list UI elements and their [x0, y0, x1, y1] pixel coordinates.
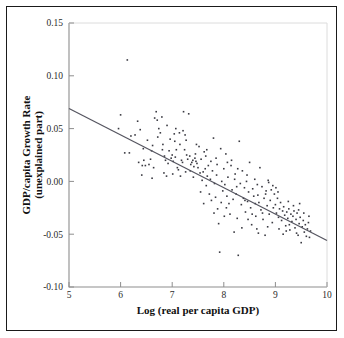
data-point — [158, 128, 160, 130]
data-point — [204, 168, 206, 170]
data-point — [289, 224, 291, 226]
data-point — [226, 195, 228, 197]
data-point — [248, 191, 250, 193]
data-point — [272, 185, 274, 187]
data-point — [296, 232, 298, 234]
data-point — [308, 215, 310, 217]
data-point — [187, 158, 189, 160]
scatter-plot: -0.10-0.050.000.050.100.155678910Log (re… — [0, 0, 344, 338]
data-point — [247, 219, 249, 221]
data-point — [234, 178, 236, 180]
data-point — [254, 178, 256, 180]
data-point — [262, 219, 264, 221]
data-point — [188, 113, 190, 115]
data-point — [241, 227, 243, 229]
figure-container: -0.10-0.050.000.050.100.155678910Log (re… — [0, 0, 344, 338]
data-point — [215, 196, 217, 198]
data-point — [294, 227, 296, 229]
data-point — [258, 232, 260, 234]
data-point — [264, 234, 266, 236]
data-point — [307, 228, 309, 230]
data-point — [288, 201, 290, 203]
data-point — [269, 200, 271, 202]
data-point — [233, 231, 235, 233]
data-point — [253, 195, 255, 197]
data-point — [287, 218, 289, 220]
y-tick-label: 0.10 — [46, 71, 63, 81]
data-point — [295, 219, 297, 221]
data-point — [234, 173, 236, 175]
x-tick-label: 8 — [221, 290, 226, 300]
data-point — [281, 220, 283, 222]
data-point — [256, 228, 258, 230]
data-point — [193, 176, 195, 178]
data-point — [224, 215, 226, 217]
data-point — [228, 203, 230, 205]
y-tick-label: 0.00 — [46, 177, 63, 187]
data-point — [308, 222, 310, 224]
data-point — [171, 154, 173, 156]
x-tick-label: 10 — [322, 290, 332, 300]
data-point — [182, 130, 184, 132]
data-point — [275, 204, 277, 206]
data-point — [241, 204, 243, 206]
data-point — [124, 152, 126, 154]
data-point — [247, 201, 249, 203]
y-tick-label: 0.15 — [46, 18, 63, 28]
data-point — [185, 171, 187, 173]
x-axis-ticks: 5678910 — [67, 282, 332, 300]
data-point — [260, 209, 262, 211]
data-point — [296, 212, 298, 214]
data-point — [258, 202, 260, 204]
data-point — [251, 224, 253, 226]
data-point — [249, 162, 251, 164]
data-point — [179, 144, 181, 146]
data-point — [179, 132, 181, 134]
data-point — [190, 164, 192, 166]
data-point — [156, 119, 158, 121]
data-point — [186, 154, 188, 156]
data-point — [251, 213, 253, 215]
data-point — [198, 146, 200, 148]
data-point — [166, 175, 168, 177]
data-point — [201, 180, 203, 182]
data-point — [138, 162, 140, 164]
data-point — [246, 181, 248, 183]
data-point — [266, 205, 268, 207]
data-point — [220, 202, 222, 204]
data-point — [277, 198, 279, 200]
data-point — [227, 162, 229, 164]
data-point — [288, 208, 290, 210]
data-point — [276, 212, 278, 214]
data-point — [200, 158, 202, 160]
data-point — [154, 117, 156, 119]
data-point — [189, 155, 191, 157]
data-point — [275, 187, 277, 189]
data-point — [196, 163, 198, 165]
data-point — [270, 189, 272, 191]
data-point — [225, 153, 227, 155]
data-point — [165, 159, 167, 161]
data-point — [215, 157, 217, 159]
data-point — [272, 222, 274, 224]
data-point — [148, 164, 150, 166]
data-point — [172, 173, 174, 175]
y-tick-label: -0.10 — [43, 282, 63, 292]
data-point — [283, 206, 285, 208]
data-point — [242, 170, 244, 172]
data-point — [279, 208, 281, 210]
data-point — [309, 237, 311, 239]
data-point — [237, 255, 239, 257]
data-point — [282, 233, 284, 235]
data-point — [257, 194, 259, 196]
data-point — [303, 212, 305, 214]
data-point — [267, 180, 269, 182]
data-point — [282, 210, 284, 212]
data-point — [175, 156, 177, 158]
data-point — [292, 215, 294, 217]
data-point — [236, 186, 238, 188]
data-point — [299, 203, 301, 205]
data-point — [205, 185, 207, 187]
data-point — [143, 159, 145, 161]
data-point — [196, 144, 198, 146]
